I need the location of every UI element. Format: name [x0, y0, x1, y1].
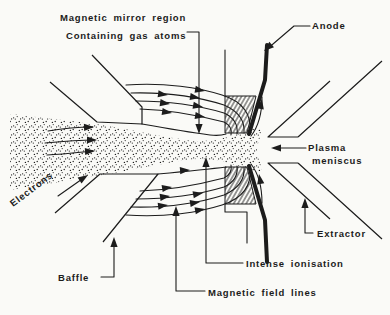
arrow-head-icon	[160, 99, 171, 108]
diagram-canvas: Magnetic mirror region Containing gas at…	[0, 0, 390, 315]
field-line	[136, 101, 237, 134]
label-magnetic-field-lines: Magnetic field lines	[208, 287, 317, 298]
label-intense-ionisation: Intense ionisation	[246, 258, 344, 269]
arrow-head-icon	[195, 124, 202, 134]
baffle-pointer	[101, 245, 114, 277]
structure-step	[225, 204, 247, 243]
arrow-head-icon	[110, 237, 117, 247]
extractor-plate-upper	[268, 61, 382, 137]
arrow-head-icon	[271, 144, 281, 151]
arrow-head-icon	[160, 192, 171, 201]
label-containing-gas-atoms: Containing gas atoms	[66, 30, 186, 41]
arrow-head-icon	[162, 108, 173, 117]
label-extractor: Extractor	[317, 228, 366, 239]
arrow-head-icon	[193, 189, 204, 198]
field-line	[158, 167, 226, 174]
field-lines-pointer	[176, 214, 205, 291]
arrow-head-icon	[162, 183, 173, 192]
gas-atoms-pointer	[187, 32, 199, 125]
label-magnetic-mirror-region: Magnetic mirror region	[60, 12, 186, 23]
label-anode: Anode	[312, 20, 346, 31]
label-plasma: Plasma	[308, 142, 346, 153]
diagram-page: Magnetic mirror region Containing gas at…	[0, 0, 390, 315]
arrow-head-icon	[172, 206, 179, 216]
lower-baffle-plate	[55, 174, 158, 242]
arrow-head-icon	[193, 102, 204, 111]
arrow-head-icon	[180, 166, 190, 174]
field-line	[142, 124, 226, 135]
arrow-head-icon	[195, 112, 206, 121]
upper-baffle-plate	[50, 55, 142, 124]
label-meniscus: meniscus	[312, 155, 362, 166]
anode-electrode-upper	[249, 45, 267, 134]
label-baffle: Baffle	[58, 272, 89, 283]
arrow-head-icon	[190, 198, 201, 207]
